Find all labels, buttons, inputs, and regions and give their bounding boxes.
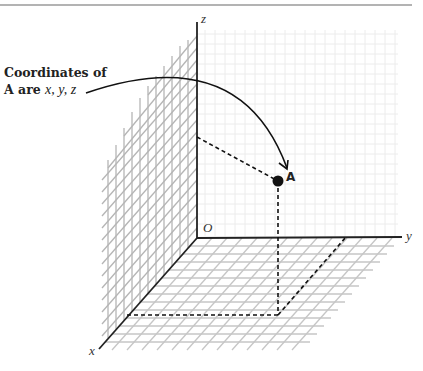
back-grid — [198, 30, 398, 236]
callout-line1: Coordinates of — [4, 64, 107, 81]
callout-line2: A are x, y, z — [4, 81, 107, 98]
y-axis-label: y — [406, 228, 412, 244]
point-a-label: A — [286, 170, 295, 184]
floor-grid — [106, 238, 394, 350]
z-axis-label: z — [201, 11, 206, 27]
coordinate-diagram — [0, 0, 423, 371]
point-a-marker — [273, 176, 284, 187]
x-axis-label: x — [89, 343, 95, 359]
callout-label: Coordinates of A are x, y, z — [4, 64, 107, 98]
y-axis — [197, 237, 402, 238]
origin-label: O — [203, 220, 212, 236]
callout-coords: x, y, z — [45, 82, 76, 97]
